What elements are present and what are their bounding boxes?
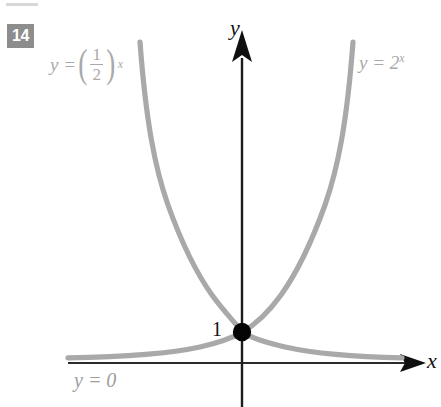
decay-label-close-paren: ) bbox=[106, 48, 115, 81]
intersection-point-dot bbox=[233, 323, 251, 341]
curve-growth-2-pow-x bbox=[68, 42, 353, 358]
decay-fraction-numerator: 1 bbox=[93, 46, 102, 63]
decay-fraction-denominator: 2 bbox=[93, 66, 102, 83]
y-intercept-value-label: 1 bbox=[212, 319, 222, 339]
x-axis-label: x bbox=[427, 350, 437, 372]
decay-label-exponent: x bbox=[118, 59, 123, 71]
growth-label-prefix: y = 2 bbox=[359, 52, 399, 73]
decay-label-fraction: 1 2 bbox=[89, 46, 104, 84]
y-axis-label: y bbox=[230, 17, 240, 39]
figure-container: 14 y x 1 y = ( 1 2 bbox=[0, 0, 441, 407]
asymptote-equation-label: y = 0 bbox=[74, 370, 116, 390]
growth-label-exponent: x bbox=[399, 52, 404, 65]
decay-label-open-paren: ( bbox=[78, 48, 87, 81]
y-axis bbox=[232, 30, 252, 407]
decay-curve-equation-label: y = ( 1 2 ) x bbox=[50, 46, 123, 84]
decay-label-prefix: y = bbox=[50, 55, 76, 74]
growth-curve-equation-label: y = 2x bbox=[359, 53, 405, 72]
